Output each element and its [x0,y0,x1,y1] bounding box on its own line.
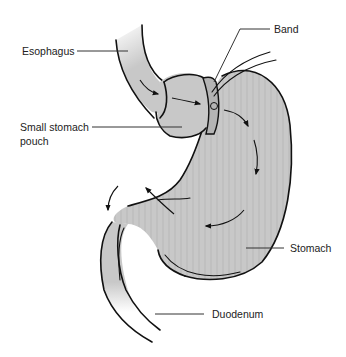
band-label: Band [274,23,299,35]
duodenum-label: Duodenum [212,308,264,320]
small-stomach-pouch-label-line2: pouch [20,135,49,147]
flow-arrow [108,186,118,210]
duodenum-shape [101,222,160,342]
stomach-label: Stomach [290,242,332,254]
esophagus-label: Esophagus [22,45,75,57]
small-stomach-pouch-shape [155,73,209,138]
gastric-band-diagram: Esophagus Band Small stomach pouch Stoma… [0,0,346,357]
small-stomach-pouch-label-line1: Small stomach [20,121,89,133]
